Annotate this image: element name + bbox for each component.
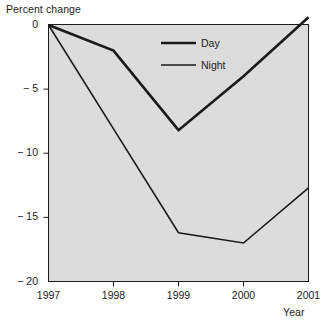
plot-background [49, 25, 309, 282]
legend-label-day: Day [201, 37, 220, 49]
y-tick-label: − 10 [4, 146, 38, 158]
x-axis-tick-marks [114, 282, 244, 287]
x-tick-label: 2000 [224, 289, 264, 301]
x-tick-label: 1997 [29, 289, 69, 301]
x-axis-title: Year [283, 306, 305, 318]
y-axis-tick-marks [44, 89, 49, 217]
x-tick-label: 1998 [94, 289, 134, 301]
y-tick-label: − 5 [4, 82, 38, 94]
plot-area [0, 0, 323, 326]
legend-label-night: Night [201, 59, 226, 71]
y-tick-label: − 15 [4, 210, 38, 222]
y-tick-label: 0 [4, 18, 38, 30]
x-tick-label: 2001 [289, 289, 323, 301]
x-tick-label: 1999 [159, 289, 199, 301]
y-tick-label: − 20 [4, 275, 38, 287]
percent-change-line-chart: Percent change Day Night 0− 5− 10− 15− 2… [0, 0, 323, 326]
